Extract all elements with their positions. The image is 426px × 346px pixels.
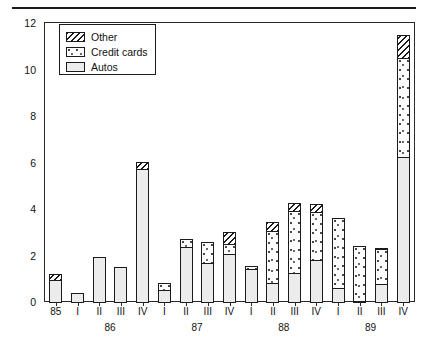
- bar-segment-autos: [332, 288, 345, 303]
- bar-stack[interactable]: [158, 283, 171, 302]
- bar-stack[interactable]: [332, 218, 345, 302]
- bar-stack[interactable]: [114, 267, 127, 302]
- bar-segment-autos: [114, 267, 127, 303]
- x-axis-tick-label: IV: [312, 306, 321, 317]
- bar-stack[interactable]: [266, 222, 279, 302]
- x-axis-group-label: 86: [105, 322, 116, 333]
- y-axis-tick-label: 0: [30, 296, 36, 308]
- y-axis-ticks: 024681012: [0, 0, 44, 302]
- bar-segment-other: [397, 35, 410, 58]
- bar-stack[interactable]: [201, 242, 214, 302]
- bar-segment-credit: [201, 242, 214, 264]
- bar-segment-credit: [375, 249, 388, 285]
- bar-segment-autos: [375, 284, 388, 303]
- legend-swatch-other-icon: [66, 32, 85, 42]
- bar-segment-autos: [49, 280, 62, 303]
- x-axis-tick-label: II: [96, 306, 102, 317]
- bar-segment-autos: [288, 273, 301, 303]
- y-axis-tick-label: 12: [24, 17, 36, 29]
- x-axis-tick-label: I: [163, 306, 166, 317]
- y-axis-tick-label: 8: [30, 110, 36, 122]
- bar-segment-autos: [180, 247, 193, 303]
- bar-segment-autos: [245, 269, 258, 303]
- bar-stack[interactable]: [49, 274, 62, 302]
- bar-stack[interactable]: [136, 162, 149, 302]
- x-axis-tick-label: I: [337, 306, 340, 317]
- y-axis-tick-label: 4: [30, 203, 36, 215]
- bar-stack[interactable]: [245, 266, 258, 302]
- chart-root: $ Billions 024681012 85IIIIIIIVIIIIIIIVI…: [0, 0, 426, 346]
- y-axis-tick-label: 2: [30, 250, 36, 262]
- bar-stack[interactable]: [310, 204, 323, 302]
- legend-item[interactable]: Autos: [66, 59, 150, 74]
- y-axis-tick-label: 10: [24, 64, 36, 76]
- bar-segment-credit: [397, 58, 410, 158]
- bar-stack[interactable]: [397, 35, 410, 302]
- bar-segment-autos: [136, 169, 149, 303]
- legend-label-autos: Autos: [91, 61, 118, 73]
- x-axis-tick-label: III: [377, 306, 385, 317]
- bar-segment-autos: [223, 254, 236, 303]
- y-axis-tick-label: 6: [30, 157, 36, 169]
- bar-segment-autos: [201, 263, 214, 303]
- x-axis-tick-label: III: [290, 306, 298, 317]
- bar-segment-credit: [288, 211, 301, 274]
- legend-label-other: Other: [91, 31, 117, 43]
- x-axis-tick-label: II: [270, 306, 276, 317]
- x-axis-tick-label: I: [250, 306, 253, 317]
- bar-segment-autos: [310, 260, 323, 303]
- legend-box: Other Credit cards Autos: [59, 24, 156, 75]
- bar-stack[interactable]: [93, 257, 106, 303]
- bar-stack[interactable]: [71, 293, 84, 302]
- x-axis-ticks: 85IIIIIIIVIIIIIIIVIIIIIIIVIIIIIIIV868788…: [45, 302, 414, 346]
- bar-segment-autos: [266, 283, 279, 303]
- legend-swatch-autos-icon: [66, 62, 85, 72]
- legend-item[interactable]: Credit cards: [66, 44, 150, 59]
- bar-segment-autos: [397, 157, 410, 303]
- legend-label-credit-cards: Credit cards: [91, 46, 148, 58]
- x-axis-tick-label: 85: [50, 306, 61, 317]
- bar-stack[interactable]: [353, 246, 366, 302]
- bar-stack[interactable]: [223, 232, 236, 302]
- x-axis-tick-label: IV: [225, 306, 234, 317]
- bar-stack[interactable]: [375, 248, 388, 302]
- bar-segment-credit: [332, 218, 345, 289]
- bar-stack[interactable]: [180, 239, 193, 302]
- x-axis-tick-label: I: [76, 306, 79, 317]
- bar-segment-credit: [310, 212, 323, 261]
- x-axis-group-label: 87: [191, 322, 202, 333]
- x-axis-group-label: 89: [365, 322, 376, 333]
- x-axis-tick-label: IV: [398, 306, 407, 317]
- legend-swatch-credit-cards-icon: [66, 47, 85, 57]
- x-axis-tick-label: IV: [138, 306, 147, 317]
- x-axis-group-label: 88: [278, 322, 289, 333]
- bar-segment-credit: [353, 246, 366, 302]
- bar-segment-autos: [93, 257, 106, 304]
- bar-stack[interactable]: [288, 203, 301, 302]
- top-horizontal-rule: [12, 7, 416, 9]
- bar-segment-credit: [266, 231, 279, 284]
- x-axis-tick-label: III: [117, 306, 125, 317]
- x-axis-tick-label: III: [204, 306, 212, 317]
- legend-item[interactable]: Other: [66, 29, 150, 44]
- x-axis-tick-label: II: [357, 306, 363, 317]
- x-axis-tick-label: II: [183, 306, 189, 317]
